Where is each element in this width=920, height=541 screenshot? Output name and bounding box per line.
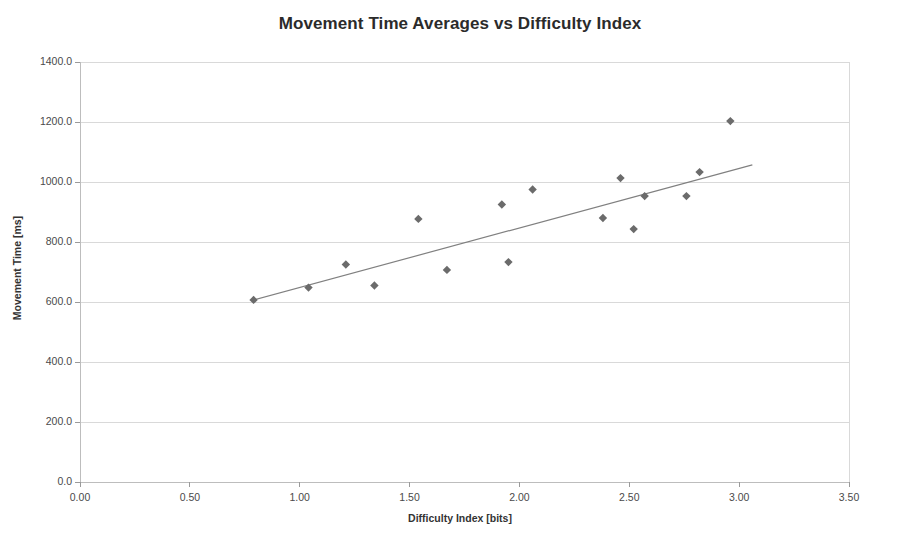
x-tick-label: 1.50 (380, 491, 440, 503)
x-tick-label: 3.50 (819, 491, 879, 503)
plot-area (0, 0, 920, 541)
data-point-marker (629, 225, 637, 233)
x-tick-label: 1.00 (270, 491, 330, 503)
y-tick-label: 1400.0 (20, 55, 72, 67)
data-point-marker (616, 174, 624, 182)
data-point-marker (682, 192, 690, 200)
data-point-marker (342, 260, 350, 268)
trendline-segment (254, 165, 753, 300)
x-tick-label: 2.50 (599, 491, 659, 503)
data-point-marker (498, 200, 506, 208)
data-point-marker (249, 296, 257, 304)
y-tick-label: 800.0 (20, 235, 72, 247)
axis-lines (80, 62, 849, 482)
x-tick-label: 2.00 (489, 491, 549, 503)
data-point-marker (599, 214, 607, 222)
axis-ticks (75, 62, 849, 487)
y-tick-label: 1000.0 (20, 175, 72, 187)
y-tick-label: 400.0 (20, 355, 72, 367)
data-point-marker (443, 266, 451, 274)
data-points (249, 117, 734, 304)
x-tick-label: 0.00 (50, 491, 110, 503)
y-tick-label: 200.0 (20, 415, 72, 427)
y-tick-label: 1200.0 (20, 115, 72, 127)
data-point-marker (726, 117, 734, 125)
chart-container: Movement Time Averages vs Difficulty Ind… (0, 0, 920, 541)
x-tick-label: 0.50 (160, 491, 220, 503)
x-tick-label: 3.00 (709, 491, 769, 503)
data-point-marker (370, 281, 378, 289)
y-tick-label: 600.0 (20, 295, 72, 307)
data-point-marker (528, 185, 536, 193)
gridlines (80, 62, 849, 482)
data-point-marker (414, 215, 422, 223)
trendline (254, 165, 753, 300)
data-point-marker (504, 258, 512, 266)
data-point-marker (695, 168, 703, 176)
y-tick-label: 0.0 (20, 475, 72, 487)
